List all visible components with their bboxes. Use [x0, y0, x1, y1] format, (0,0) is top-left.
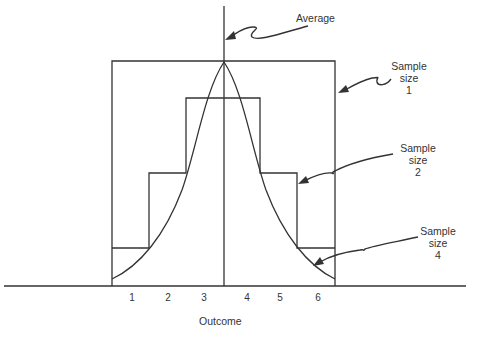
sample-size-1-line3: 1	[384, 84, 434, 96]
sample-size-4-arrowhead-icon	[313, 257, 324, 266]
sample-size-2-line3: 2	[393, 166, 443, 178]
sample-size-4-line3: 4	[413, 249, 463, 261]
tick-label-5: 5	[273, 292, 287, 303]
sample-size-2-line2: size	[393, 154, 443, 166]
sample-size-4-label: Sample size 4	[413, 225, 463, 261]
sample-size-1-arrowhead-icon	[338, 85, 349, 93]
average-label: Average	[296, 12, 335, 24]
sample-size-2-arrowhead-icon	[298, 176, 309, 184]
sample-size-2-line1: Sample	[393, 142, 443, 154]
sample-size-4-line1: Sample	[413, 225, 463, 237]
average-arrow	[230, 26, 308, 38]
tick-label-3: 3	[197, 292, 211, 303]
average-arrowhead-icon	[225, 31, 236, 40]
sample-size-1-line1: Sample	[384, 60, 434, 72]
sample-size-2-label: Sample size 2	[393, 142, 443, 178]
sample-size-4-line2: size	[413, 237, 463, 249]
sample-size-1-label: Sample size 1	[384, 60, 434, 96]
tick-label-1: 1	[125, 292, 139, 303]
sample-size-1-line2: size	[384, 72, 434, 84]
tick-label-6: 6	[311, 292, 325, 303]
x-axis-label: Outcome	[199, 315, 242, 327]
tick-label-4: 4	[240, 292, 254, 303]
sample-size-2-arrow	[304, 154, 393, 181]
tick-label-2: 2	[161, 292, 175, 303]
